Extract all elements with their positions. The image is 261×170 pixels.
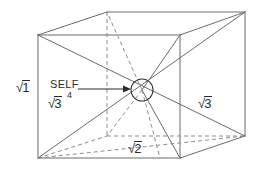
label-sqrt2: √2 <box>128 140 142 156</box>
radical-body-2: 2 <box>134 141 142 156</box>
radical-sqrt2: √2 <box>128 141 142 156</box>
radical-body-3-right: 3 <box>204 96 212 111</box>
edge-connect-top-left <box>38 12 107 35</box>
radical-body-3-left: 3 <box>54 96 62 111</box>
cube-diagram: √1 SELF √3 4 √3 √2 <box>0 0 261 170</box>
diagonal-center-to-backtopleft <box>107 12 142 90</box>
self-arrow <box>78 86 131 93</box>
connecting-edge-hidden <box>38 136 107 158</box>
label-sqrt1: √1 <box>16 79 30 95</box>
diagonal-fronttopright-to-backbottomleft-visible <box>142 35 180 90</box>
back-face-edges-solid <box>107 12 245 136</box>
self-arrow-head <box>123 86 131 93</box>
radical-body-1: 1 <box>22 80 30 95</box>
edge-connect-top-right <box>180 12 245 35</box>
label-self: SELF <box>50 79 79 90</box>
radical-sqrt3-right: √3 <box>198 96 212 111</box>
radical-sqrt1: √1 <box>16 80 30 95</box>
label-sqrt3-left: √3 <box>48 95 62 111</box>
edge-connect-bottom-left <box>38 136 107 158</box>
label-four: 4 <box>67 91 72 100</box>
back-face-edges-hidden <box>107 12 245 136</box>
body-diagonals-hidden <box>107 12 142 136</box>
diagonal-frontbottomright-to-backtopleft-visible <box>142 90 180 158</box>
label-sqrt3-right: √3 <box>198 95 212 111</box>
radical-sqrt3-left: √3 <box>48 96 62 111</box>
